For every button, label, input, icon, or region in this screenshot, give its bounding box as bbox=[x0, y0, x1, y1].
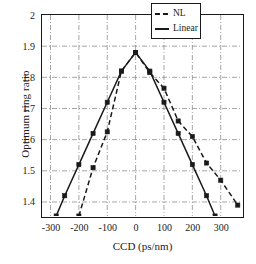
x-axis-label: CCD (ps/nm) bbox=[41, 240, 244, 252]
plot-area bbox=[41, 14, 244, 218]
y-tick-label: 2 bbox=[9, 11, 35, 21]
legend-entry-nl: NL bbox=[155, 6, 197, 21]
chart-figure: Optimum ring ratio CCD (ps/nm) 1.41.51.6… bbox=[0, 0, 256, 264]
legend: NL Linear bbox=[151, 3, 201, 39]
dashed-line-swatch-icon bbox=[155, 9, 170, 18]
y-tick-label: 1.7 bbox=[9, 104, 35, 114]
y-tick-label: 1.8 bbox=[9, 73, 35, 83]
legend-entry-linear: Linear bbox=[155, 21, 197, 36]
y-axis-label: Optimum ring ratio bbox=[19, 44, 31, 184]
plot-canvas bbox=[42, 15, 242, 216]
y-tick-label: 1.9 bbox=[9, 42, 35, 52]
solid-line-swatch-icon bbox=[155, 24, 170, 33]
y-tick-label: 1.5 bbox=[9, 166, 35, 176]
legend-label-nl: NL bbox=[173, 9, 186, 19]
legend-label-linear: Linear bbox=[173, 24, 198, 34]
x-tick-label: 300 bbox=[204, 223, 238, 233]
y-tick-label: 1.4 bbox=[9, 197, 35, 207]
y-tick-label: 1.6 bbox=[9, 135, 35, 145]
